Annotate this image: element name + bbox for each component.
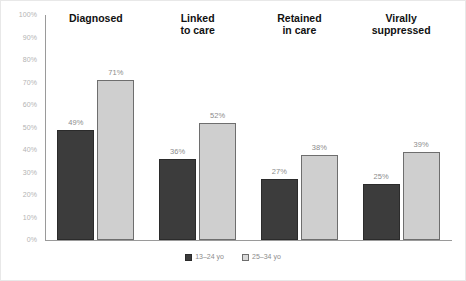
bar-13-24[interactable] bbox=[159, 159, 196, 240]
group-bars: 49%71% bbox=[45, 15, 147, 240]
bar-value-label: 71% bbox=[96, 68, 136, 77]
plot-area: Diagnosed49%71%Linked to care36%52%Retai… bbox=[45, 15, 453, 241]
bar-25-34[interactable] bbox=[97, 80, 134, 240]
bar-value-label: 36% bbox=[158, 147, 198, 156]
bar-25-34[interactable] bbox=[403, 152, 440, 240]
bar-value-label: 25% bbox=[361, 172, 401, 181]
legend-swatch-icon bbox=[242, 254, 249, 261]
bar-13-24[interactable] bbox=[57, 130, 94, 240]
y-axis-tick-labels: 100%90%80%70%60%50%40%30%20%10%0% bbox=[1, 15, 41, 241]
legend-swatch-icon bbox=[185, 254, 192, 261]
bar-group: Diagnosed49%71% bbox=[45, 14, 147, 240]
y-axis-tick-20: 20% bbox=[1, 191, 37, 199]
y-axis-tick-40: 40% bbox=[1, 146, 37, 154]
bar-25-34[interactable] bbox=[301, 155, 338, 241]
legend-label: 25–34 yo bbox=[252, 253, 281, 261]
y-axis-tick-90: 90% bbox=[1, 34, 37, 42]
bar-value-label: 39% bbox=[401, 140, 441, 149]
bar-value-label: 52% bbox=[198, 111, 238, 120]
legend-item[interactable]: 25–34 yo bbox=[242, 253, 281, 261]
bar-13-24[interactable] bbox=[363, 184, 400, 240]
bar-group: Linked to care36%52% bbox=[147, 14, 249, 240]
group-bars: 25%39% bbox=[350, 15, 452, 240]
y-axis-tick-10: 10% bbox=[1, 214, 37, 222]
chart-legend: 13–24 yo25–34 yo bbox=[1, 253, 465, 261]
y-axis-tick-100: 100% bbox=[1, 11, 37, 19]
chart-figure: 100%90%80%70%60%50%40%30%20%10%0% Diagno… bbox=[0, 0, 466, 281]
bar-13-24[interactable] bbox=[261, 179, 298, 240]
x-axis-line bbox=[45, 240, 452, 241]
bar-group: Retained in care27%38% bbox=[249, 14, 351, 240]
y-axis-tick-30: 30% bbox=[1, 169, 37, 177]
y-axis-tick-70: 70% bbox=[1, 79, 37, 87]
group-bars: 36%52% bbox=[147, 15, 249, 240]
legend-item[interactable]: 13–24 yo bbox=[185, 253, 224, 261]
y-axis-tick-80: 80% bbox=[1, 56, 37, 64]
bar-value-label: 49% bbox=[56, 118, 96, 127]
y-axis-tick-50: 50% bbox=[1, 124, 37, 132]
bar-group: Virally suppressed25%39% bbox=[350, 14, 452, 240]
y-axis-tick-0: 0% bbox=[1, 236, 37, 244]
y-axis-tick-60: 60% bbox=[1, 101, 37, 109]
bar-value-label: 38% bbox=[299, 143, 339, 152]
bar-25-34[interactable] bbox=[199, 123, 236, 240]
bar-value-label: 27% bbox=[259, 167, 299, 176]
legend-label: 13–24 yo bbox=[195, 253, 224, 261]
group-bars: 27%38% bbox=[249, 15, 351, 240]
